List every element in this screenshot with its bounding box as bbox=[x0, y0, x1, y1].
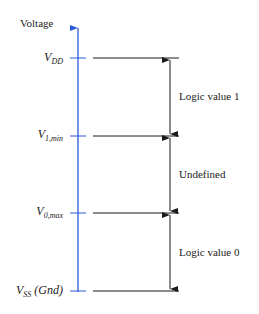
level-label-v0max: V0,max bbox=[36, 204, 63, 220]
level-label-vss: VSS (Gnd) bbox=[16, 283, 63, 299]
level-lines bbox=[93, 58, 179, 291]
voltage-diagram bbox=[0, 0, 259, 314]
level-label-vdd: VDD bbox=[44, 50, 63, 66]
region-label-logic-1: Logic value 1 bbox=[179, 90, 239, 102]
region-label-logic-0: Logic value 0 bbox=[179, 246, 239, 258]
axis-label: Voltage bbox=[20, 17, 53, 29]
level-label-v1min: V1,min bbox=[38, 127, 63, 143]
region-label-undefined: Undefined bbox=[179, 168, 225, 180]
